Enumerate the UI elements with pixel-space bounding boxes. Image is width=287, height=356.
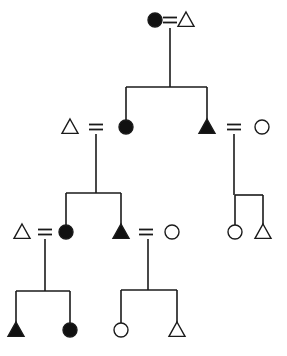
- open-triangle-icon: [14, 224, 30, 238]
- caption: [0, 344, 287, 356]
- kinship-diagram: [0, 0, 287, 356]
- filled-circle-icon: [148, 13, 162, 27]
- filled-triangle-icon: [8, 322, 24, 336]
- marriage-equals-icon: [163, 18, 177, 23]
- marriage-equals-icon: [38, 230, 52, 235]
- filled-triangle-icon: [113, 224, 129, 238]
- filled-circle-icon: [59, 225, 73, 239]
- open-triangle-icon: [178, 12, 194, 26]
- open-triangle-icon: [255, 224, 271, 238]
- kin-symbols: [8, 12, 271, 337]
- filled-circle-icon: [119, 120, 133, 134]
- open-circle-icon: [255, 120, 269, 134]
- marriage-equals-icon: [89, 125, 103, 130]
- open-triangle-icon: [62, 119, 78, 133]
- open-circle-icon: [228, 225, 242, 239]
- descent-lines: [16, 28, 263, 323]
- open-circle-icon: [165, 225, 179, 239]
- marriage-equals-icon: [139, 230, 153, 235]
- open-triangle-icon: [169, 322, 185, 336]
- marriage-equals-icon: [227, 125, 241, 130]
- filled-triangle-icon: [199, 119, 215, 133]
- open-circle-icon: [114, 323, 128, 337]
- filled-circle-icon: [63, 323, 77, 337]
